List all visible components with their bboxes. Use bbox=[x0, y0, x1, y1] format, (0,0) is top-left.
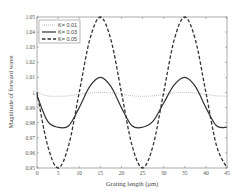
legend-label: K= 0.03 bbox=[58, 29, 77, 35]
x-axis-label: Grating length (μm) bbox=[106, 180, 158, 188]
y-tick-label: 1.03 bbox=[25, 44, 35, 50]
y-tick-label: 1 bbox=[32, 90, 35, 96]
y-tick-label: 1.04 bbox=[25, 29, 35, 35]
x-tick-label: 0 bbox=[36, 170, 39, 176]
x-tick-label: 15 bbox=[98, 170, 104, 176]
x-tick-label: 10 bbox=[76, 170, 82, 176]
line-chart: 0.950.960.970.980.9911.011.021.031.041.0… bbox=[0, 0, 244, 191]
legend-label: K= 0.01 bbox=[58, 22, 77, 28]
y-tick-label: 1.02 bbox=[25, 59, 35, 65]
x-tick-label: 40 bbox=[203, 170, 209, 176]
y-tick-label: 0.98 bbox=[25, 120, 35, 126]
legend: K= 0.01K= 0.03K= 0.05 bbox=[39, 20, 80, 43]
y-tick-label: 0.97 bbox=[25, 135, 35, 141]
y-axis-label: Magnitude of forward wave bbox=[7, 56, 14, 129]
x-tick-label: 25 bbox=[140, 170, 146, 176]
x-tick-label: 45 bbox=[224, 170, 230, 176]
x-tick-label: 5 bbox=[57, 170, 60, 176]
y-tick-label: 0.99 bbox=[25, 105, 35, 111]
y-tick-label: 1.05 bbox=[25, 14, 35, 20]
legend-label: K= 0.05 bbox=[58, 36, 77, 42]
y-tick-label: 0.95 bbox=[25, 165, 35, 171]
y-tick-label: 0.96 bbox=[25, 150, 35, 156]
x-tick-label: 30 bbox=[161, 170, 167, 176]
y-tick-label: 1.01 bbox=[25, 74, 35, 80]
x-tick-label: 20 bbox=[119, 170, 125, 176]
x-tick-label: 35 bbox=[182, 170, 188, 176]
